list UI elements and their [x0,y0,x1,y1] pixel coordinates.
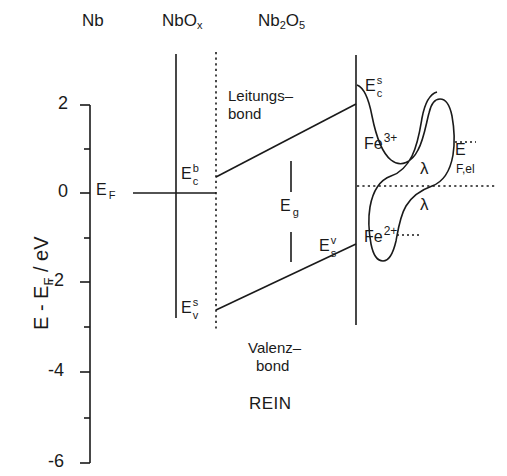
label-conduction-bulk: Ebc [181,166,192,182]
figure-caption: REIN [249,395,292,412]
y-axis-title: E - EF / eV [30,236,53,330]
phase-label-metal: Nb [82,12,104,29]
y-tick-label-m6: -6 [48,452,64,470]
label-valence-surface-right: Evs [319,238,330,254]
label-conduction-surface: Esc [365,78,376,94]
label-valence-band: Valenz– [248,340,301,355]
label-band-gap: Eg [280,198,297,214]
phase-label-oxide: Nb2O5 [258,12,305,29]
label-electrolyte-fermi: E [455,142,466,158]
y-axis-title-unit: / eV [30,236,52,277]
label-valence-band-line2: bond [256,358,289,373]
phase-label-suboxide: NbOx [162,12,202,29]
label-fe2plus: Fe2+ [364,229,396,245]
label-fe3plus: Fe3+ [364,136,396,152]
label-fermi-level: EF [96,182,113,198]
label-electrolyte-fermi-sub: F,el [456,163,475,175]
y-tick-label-0: 0 [58,182,68,200]
y-tick-label-2: 2 [58,94,68,112]
label-lambda-upper: λ [420,160,429,177]
label-lambda-lower: λ [420,196,429,213]
band-diagram-figure: Nb NbOx Nb2O5 2 0 -2 -4 -6 E - EF / eV E… [0,0,507,476]
label-conduction-band: Leitungs– [228,88,293,103]
label-conduction-band-line2: bond [228,106,261,121]
y-tick-label-m4: -4 [48,361,64,379]
y-axis-title-sub: F [41,278,56,286]
label-valence-surface-left: Esv [181,300,192,316]
y-axis-title-main: E - E [30,286,52,330]
